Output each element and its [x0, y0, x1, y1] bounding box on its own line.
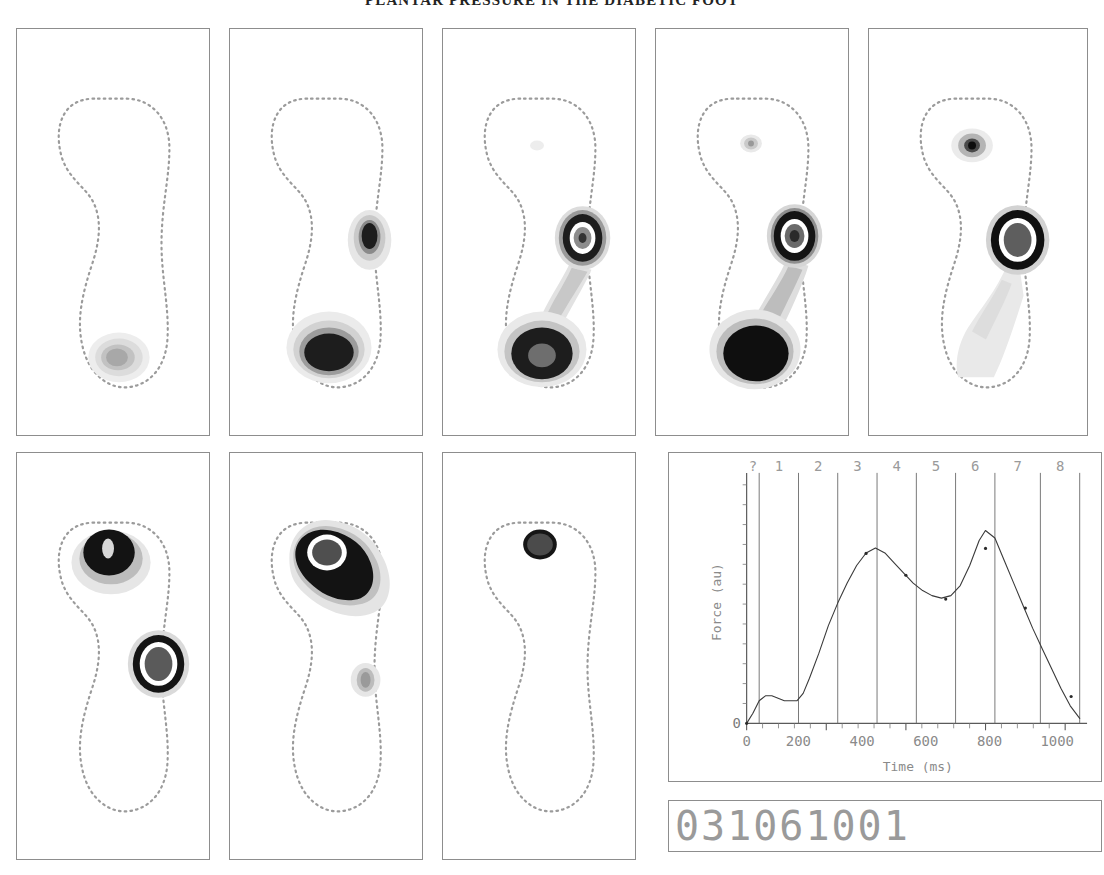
phase-labels: ? 1 2 3 4 5 6 7 8	[749, 458, 1065, 474]
panel-6-pressure-map	[17, 453, 209, 859]
phase-label-3: 3	[853, 458, 861, 474]
pressure-blob-hallux-5	[951, 129, 993, 163]
pressure-midfoot-region-5	[957, 264, 1024, 377]
pressure-blob-heel-3	[497, 312, 586, 388]
pressure-blob-lesser-toe-7	[351, 663, 381, 697]
panel-1	[16, 28, 210, 436]
panel-row-bottom: ? 1 2 3 4 5 6 7 8	[0, 452, 1104, 867]
x-tick-label-400: 400	[850, 733, 875, 749]
pressure-blob-metatarsal-6	[128, 630, 189, 698]
phase-label-5: 5	[932, 458, 940, 474]
panel-6	[16, 452, 210, 860]
pressure-merged-forefoot-7	[289, 520, 389, 616]
x-tick-label-800: 800	[977, 733, 1002, 749]
x-tick-labels: 0 200 400 600 800 1000	[742, 733, 1074, 749]
phase-label-2: 2	[814, 458, 822, 474]
panel-1-pressure-map	[17, 29, 209, 435]
panel-5-pressure-map	[869, 29, 1087, 435]
x-tick-label-0: 0	[742, 733, 750, 749]
phase-label-8: 8	[1056, 458, 1064, 474]
phase-label-1: 1	[775, 458, 783, 474]
pressure-blob-metatarsal-2	[348, 210, 392, 270]
panel-8-pressure-map	[443, 453, 635, 859]
phase-label-4: 4	[892, 458, 900, 474]
phase-intersection-markers	[745, 547, 1073, 725]
pressure-blob-heel-2	[286, 312, 371, 384]
panel-4-pressure-map	[656, 29, 848, 435]
x-axis-title: Time (ms)	[883, 759, 953, 774]
panel-3-pressure-map	[443, 29, 635, 435]
phase-label-0: ?	[749, 458, 757, 474]
pressure-blob-hallux-4	[740, 134, 762, 152]
panel-7	[229, 452, 423, 860]
pressure-blob-metatarsal-4	[767, 204, 822, 268]
panel-2	[229, 28, 423, 436]
pressure-blob-toeoff-8	[523, 530, 557, 560]
record-id-box: 031061001	[668, 800, 1102, 852]
pressure-figure: ? 1 2 3 4 5 6 7 8	[0, 24, 1104, 875]
y-axis-title: Force (au)	[709, 563, 724, 641]
force-time-graph-panel: ? 1 2 3 4 5 6 7 8	[668, 452, 1102, 782]
pressure-blob-metatarsal-3	[555, 206, 610, 270]
x-tick-label-200: 200	[786, 733, 811, 749]
pressure-blob-hallux-3	[530, 140, 544, 150]
x-tick-label-600: 600	[913, 733, 938, 749]
panel-row-top	[0, 28, 1104, 438]
y-tick-label-0: 0	[732, 715, 740, 731]
pressure-blob-hallux-6	[71, 530, 150, 595]
record-id-label: 031061001	[675, 803, 910, 849]
panel-3	[442, 28, 636, 436]
panel-7-pressure-map	[230, 453, 422, 859]
pressure-blob-heel-4	[709, 310, 800, 390]
x-tick-label-1000: 1000	[1040, 733, 1074, 749]
pressure-blob-metatarsal-5	[986, 205, 1049, 275]
panel-2-pressure-map	[230, 29, 422, 435]
force-time-chart: ? 1 2 3 4 5 6 7 8	[669, 453, 1101, 781]
panel-4	[655, 28, 849, 436]
phase-label-6: 6	[971, 458, 979, 474]
running-header: PLANTAR PRESSURE IN THE DIABETIC FOOT	[0, 0, 1104, 8]
phase-label-7: 7	[1013, 458, 1021, 474]
panel-5	[868, 28, 1088, 436]
panel-8	[442, 452, 636, 860]
pressure-blob-heel-1	[88, 333, 149, 383]
foot-outline-8	[485, 523, 596, 812]
force-curve	[747, 531, 1080, 724]
phase-dividers	[759, 473, 1080, 723]
